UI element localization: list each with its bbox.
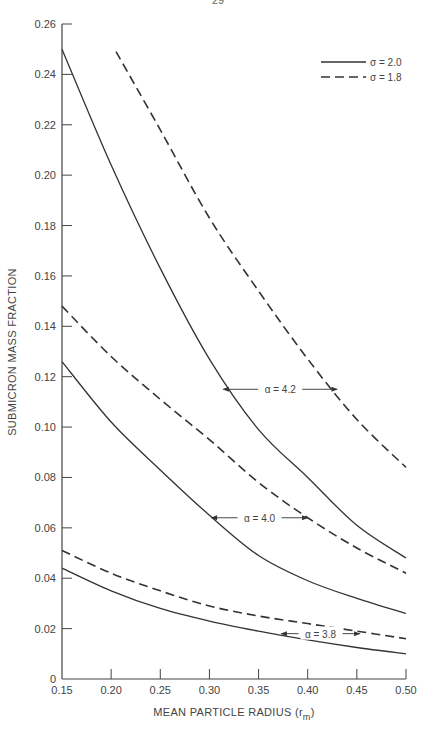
y-tick-label: 0.08 <box>35 471 56 483</box>
x-tick-label: 0.50 <box>395 684 416 696</box>
y-tick-label: 0.16 <box>35 270 56 282</box>
x-tick-label: 0.30 <box>199 684 220 696</box>
legend-label: σ = 2.0 <box>370 57 402 68</box>
x-tick-label: 0.35 <box>248 684 269 696</box>
series-line <box>62 551 406 639</box>
y-tick-label: 0.06 <box>35 522 56 534</box>
annotations: α = 4.2α = 4.0α = 3.8 <box>211 382 359 639</box>
y-tick-label: 0.20 <box>35 169 56 181</box>
y-tick-label: 0.10 <box>35 421 56 433</box>
legend: σ = 2.0σ = 1.8 <box>321 57 402 83</box>
y-tick-label: 0.12 <box>35 371 56 383</box>
annotation-label: α = 3.8 <box>305 629 337 640</box>
legend-label: σ = 1.8 <box>370 72 402 83</box>
y-axis-title: SUBMICRON MASS FRACTION <box>6 268 18 436</box>
x-tick-label: 0.45 <box>346 684 367 696</box>
series-line <box>116 52 406 468</box>
y-tick-label: 0.24 <box>35 68 56 80</box>
x-tick-label: 0.25 <box>150 684 171 696</box>
x-tick-label: 0.40 <box>297 684 318 696</box>
y-tick-label: 0.18 <box>35 220 56 232</box>
y-tick-label: 0.14 <box>35 320 56 332</box>
x-tick-label: 0.15 <box>51 684 72 696</box>
series-group <box>62 49 406 654</box>
series-line <box>62 362 406 614</box>
series-line <box>62 49 406 558</box>
x-axis-title: MEAN PARTICLE RADIUS (rm) <box>153 706 314 722</box>
y-tick-label: 0.04 <box>35 572 56 584</box>
line-chart: 00.020.040.060.080.100.120.140.160.180.2… <box>0 0 432 736</box>
y-tick-label: 0.26 <box>35 18 56 30</box>
y-tick-label: 0.02 <box>35 623 56 635</box>
series-line <box>62 306 406 573</box>
annotation-label: α = 4.2 <box>265 384 297 395</box>
y-tick-label: 0.22 <box>35 119 56 131</box>
x-tick-label: 0.20 <box>100 684 121 696</box>
annotation-label: α = 4.0 <box>244 513 276 524</box>
